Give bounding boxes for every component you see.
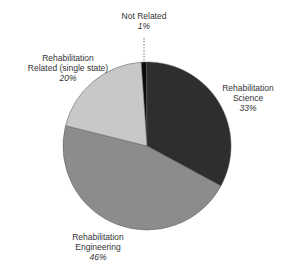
pie-chart: Not Related 1% Rehabilitation Related (s…	[0, 0, 288, 273]
label-rehab-science: Rehabilitation Science 33%	[210, 83, 286, 113]
pie-slices	[63, 62, 231, 230]
label-name: Rehabilitation	[8, 53, 128, 63]
label-rehab-engineering: Rehabilitation Engineering 46%	[58, 232, 138, 262]
pie-chart-svg	[0, 0, 288, 273]
label-percent: 46%	[58, 252, 138, 262]
label-name: Science	[210, 93, 286, 103]
label-name: Engineering	[58, 242, 138, 252]
label-not-related: Not Related 1%	[104, 11, 184, 31]
label-percent: 1%	[104, 21, 184, 31]
label-name: Related (single state)	[8, 63, 128, 73]
label-name: Not Related	[104, 11, 184, 21]
label-rehab-related: Rehabilitation Related (single state) 20…	[8, 53, 128, 83]
label-percent: 20%	[8, 73, 128, 83]
label-percent: 33%	[210, 103, 286, 113]
label-name: Rehabilitation	[58, 232, 138, 242]
label-name: Rehabilitation	[210, 83, 286, 93]
